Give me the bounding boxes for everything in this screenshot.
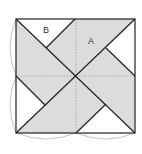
arc-left-lower bbox=[10, 76, 16, 133]
arc-bottom-left bbox=[16, 133, 76, 139]
label-b: B bbox=[43, 25, 49, 35]
arc-left-upper bbox=[10, 19, 16, 76]
label-a: A bbox=[88, 36, 94, 46]
tangram-square-diagram: B A bbox=[0, 0, 142, 154]
arc-bottom-right bbox=[76, 133, 135, 139]
